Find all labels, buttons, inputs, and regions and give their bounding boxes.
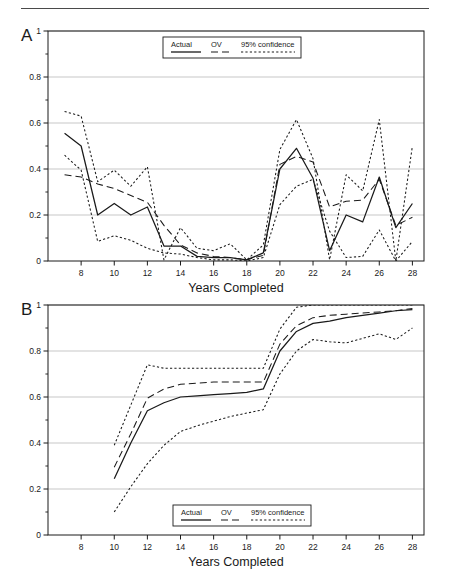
legend-label-95-confidence: 95% confidence [241, 40, 294, 49]
figure-container: A B 00.20.40.60.81810121416182022242628Y… [0, 0, 450, 570]
xtick-label: 10 [110, 268, 120, 278]
series-line-95-confidence-upper [65, 112, 413, 262]
legend-B: ActualOV95% confidence [173, 505, 311, 526]
plot-frame [48, 31, 424, 261]
xtick-label: 22 [308, 268, 318, 278]
x-axis-title: Years Completed [188, 555, 283, 569]
ytick-label: 0.8 [29, 72, 41, 82]
panel-B: 00.20.40.60.81810121416182022242628Years… [29, 300, 424, 569]
series-line-95-confidence-lower [65, 155, 413, 261]
xtick-label: 18 [242, 268, 252, 278]
ytick-label: 0.4 [29, 438, 41, 448]
legend-label-95-confidence: 95% confidence [251, 508, 304, 517]
xtick-label: 24 [341, 268, 351, 278]
ytick-label: 0.2 [29, 484, 41, 494]
xtick-label: 18 [242, 542, 252, 552]
header-rule [21, 8, 429, 9]
panel-b-letter: B [21, 300, 32, 320]
xtick-label: 22 [308, 542, 318, 552]
xtick-label: 24 [341, 542, 351, 552]
legend-A: ActualOV95% confidence [163, 37, 301, 58]
series-line-actual [65, 133, 413, 260]
ytick-label: 0 [36, 530, 41, 540]
plot-frame [48, 305, 424, 535]
ytick-label: 1 [36, 300, 41, 310]
xtick-label: 20 [275, 542, 285, 552]
xtick-label: 8 [79, 268, 84, 278]
xtick-label: 28 [408, 268, 418, 278]
ytick-label: 0.6 [29, 392, 41, 402]
chart-svg: 00.20.40.60.81810121416182022242628Years… [0, 0, 450, 570]
ytick-label: 0 [36, 256, 41, 266]
xtick-label: 12 [143, 542, 153, 552]
series-group [65, 112, 413, 262]
xtick-label: 12 [143, 268, 153, 278]
series-line-actual [114, 310, 412, 479]
panel-A: 00.20.40.60.81810121416182022242628Years… [29, 26, 424, 295]
xtick-label: 16 [209, 542, 219, 552]
panel-a-letter: A [21, 26, 32, 46]
xtick-label: 14 [176, 268, 186, 278]
ytick-label: 1 [36, 26, 41, 36]
xtick-label: 28 [408, 542, 418, 552]
xtick-label: 26 [375, 268, 385, 278]
xtick-label: 26 [375, 542, 385, 552]
ytick-label: 0.4 [29, 164, 41, 174]
series-line-95-confidence-upper [114, 305, 412, 445]
xtick-label: 14 [176, 542, 186, 552]
series-line-95-confidence-lower [114, 328, 412, 512]
x-axis-title: Years Completed [188, 281, 283, 295]
ytick-label: 0.2 [29, 210, 41, 220]
legend-label-ov: OV [211, 40, 222, 49]
ytick-label: 0.8 [29, 346, 41, 356]
legend-label-actual: Actual [171, 40, 192, 49]
series-group [114, 305, 412, 512]
ytick-label: 0.6 [29, 118, 41, 128]
series-line-ov [65, 156, 413, 260]
xtick-label: 20 [275, 268, 285, 278]
xtick-label: 8 [79, 542, 84, 552]
legend-label-actual: Actual [181, 508, 202, 517]
xtick-label: 16 [209, 268, 219, 278]
legend-label-ov: OV [221, 508, 232, 517]
xtick-label: 10 [110, 542, 120, 552]
